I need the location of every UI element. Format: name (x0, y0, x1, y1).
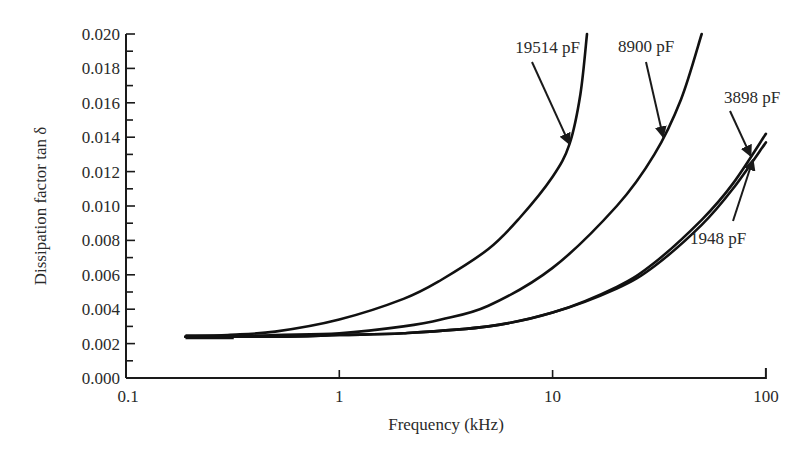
annotations: 19514 pF8900 pF3898 pF1948 pF (515, 37, 780, 248)
y-tick-label: 0.016 (82, 94, 120, 113)
x-tick-label: 0.1 (117, 387, 138, 406)
x-axis: 0.1110100 (117, 368, 778, 406)
annotation-label: 1948 pF (690, 229, 746, 248)
y-tick-label: 0.020 (82, 25, 120, 44)
annotation-arrow (646, 62, 663, 137)
annotation-label: 19514 pF (515, 38, 580, 57)
annotation-arrow (730, 111, 751, 156)
curve-1948-pf (186, 142, 766, 336)
x-tick-label: 1 (335, 387, 344, 406)
annotation-label: 8900 pF (618, 37, 674, 56)
annotation-arrow (532, 62, 569, 144)
y-tick-label: 0.006 (82, 266, 120, 285)
curve-19514-pf (186, 34, 588, 337)
x-tick-label: 10 (544, 387, 561, 406)
y-tick-label: 0.012 (82, 163, 120, 182)
y-tick-label: 0.014 (82, 128, 121, 147)
y-tick-label: 0.004 (82, 300, 121, 319)
curve-8900-pf (186, 34, 702, 337)
annotation-label: 3898 pF (724, 88, 780, 107)
y-axis: 0.0000.0020.0040.0060.0080.0100.0120.014… (82, 25, 135, 388)
y-tick-label: 0.018 (82, 59, 120, 78)
curve-3898-pf (186, 134, 766, 337)
x-axis-line (126, 368, 766, 378)
y-tick-label: 0.008 (82, 231, 120, 250)
dissipation-factor-chart: 0.0000.0020.0040.0060.0080.0100.0120.014… (0, 0, 805, 457)
plot-area (185, 34, 765, 337)
y-tick-label: 0.010 (82, 197, 120, 216)
y-tick-label: 0.002 (82, 335, 120, 354)
x-tick-label: 100 (753, 387, 779, 406)
y-tick-label: 0.000 (82, 369, 120, 388)
x-axis-title: Frequency (kHz) (388, 415, 504, 434)
y-axis-title: Dissipation factor tan δ (31, 127, 50, 286)
